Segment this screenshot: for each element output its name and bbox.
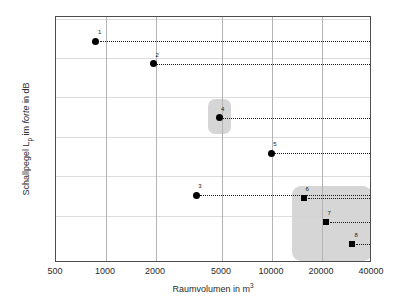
data-point-label-2: 2 (155, 52, 158, 58)
data-point-8 (349, 241, 355, 247)
y-tick-minor-83.5 (55, 239, 56, 240)
data-point-label-4: 4 (221, 106, 224, 112)
x-tick-label-40000: 40000 (358, 266, 383, 276)
value-line-8 (356, 244, 371, 245)
data-point-label-7: 7 (328, 210, 331, 216)
y-axis-title-subscript: p (26, 138, 33, 142)
y-axis-title-end: in dB (21, 82, 31, 105)
y-axis-title-mid: im (21, 123, 31, 138)
x-tick-label-20000: 20000 (308, 266, 333, 276)
y-tick-minor-92.5 (55, 97, 56, 98)
data-point-label-6: 6 (306, 186, 309, 192)
value-line-3 (200, 195, 371, 196)
x-tick-label-2000: 2000 (145, 266, 165, 276)
x-tick-20000 (322, 261, 323, 262)
data-point-3 (193, 192, 200, 199)
data-point-5 (268, 150, 275, 157)
x-axis-title: Raumvolumen in m3 (55, 282, 371, 294)
y-tick-minor-87.5 (55, 176, 56, 177)
vgridline-1000 (106, 17, 107, 261)
value-line-5 (275, 153, 371, 154)
x-tick-label-1000: 1000 (95, 266, 115, 276)
vgridline-10000 (272, 17, 273, 261)
value-line-1 (100, 41, 371, 42)
y-tick-minor-97.5 (55, 19, 56, 20)
x-tick-label-500: 500 (47, 266, 62, 276)
plot-area: 12345678 (55, 16, 371, 262)
x-tick-label-5000: 5000 (211, 266, 231, 276)
y-axis-title: Schallpegel Lp im forte in dB (18, 16, 34, 262)
y-axis-title-main: Schallpegel L (21, 142, 31, 196)
x-tick-1000 (106, 261, 107, 262)
x-tick-5000 (222, 261, 223, 262)
x-tick-10000 (272, 261, 273, 262)
data-point-7 (323, 219, 329, 225)
y-axis-title-italic: forte (21, 105, 31, 123)
x-axis-title-exponent: 3 (250, 282, 254, 289)
data-point-6 (301, 195, 307, 201)
data-point-label-5: 5 (273, 141, 276, 147)
x-tick-2000 (156, 261, 157, 262)
vgridline-5000 (222, 17, 223, 261)
x-tick-label-10000: 10000 (258, 266, 283, 276)
value-line-4 (223, 118, 371, 119)
y-tick-90 (55, 137, 56, 138)
value-line-7 (330, 222, 372, 223)
data-point-label-3: 3 (198, 183, 201, 189)
value-line-2 (157, 64, 371, 65)
y-tick-95 (55, 58, 56, 59)
chart-figure: Schallpegel Lp im forte in dB Raumvolume… (0, 0, 401, 307)
data-point-4 (216, 114, 223, 121)
data-point-label-1: 1 (98, 29, 101, 35)
data-point-label-8: 8 (354, 232, 357, 238)
x-tick-500 (56, 261, 57, 262)
y-tick-85 (55, 216, 56, 217)
data-point-2 (150, 60, 157, 67)
data-point-1 (92, 38, 99, 45)
x-axis-title-text: Raumvolumen in m (172, 284, 250, 294)
value-line-6 (308, 198, 371, 199)
